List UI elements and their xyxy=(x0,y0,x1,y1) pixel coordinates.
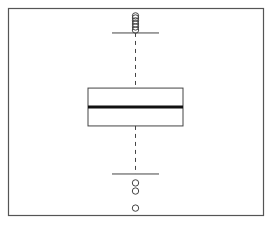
boxplot xyxy=(88,13,183,212)
outlier-point xyxy=(132,205,138,211)
plot-frame xyxy=(9,9,264,216)
outlier-point xyxy=(132,180,138,186)
boxplot-chart xyxy=(0,0,270,226)
outlier-point xyxy=(132,188,138,194)
